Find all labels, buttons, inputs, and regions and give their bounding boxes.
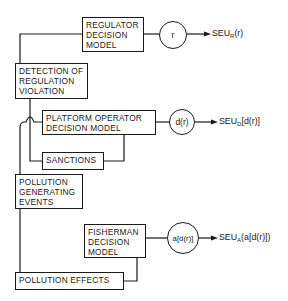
fisherman-seu-label: SEUA(a[d(r)]) bbox=[219, 232, 270, 243]
fisherman-decision-model-box: FISHERMAN DECISION MODEL bbox=[84, 224, 146, 258]
pollution-effects-box: POLLUTION EFFECTS bbox=[15, 272, 124, 290]
seu-base: SEU bbox=[219, 116, 237, 126]
seu-argument: [d(r)] bbox=[241, 116, 260, 126]
detection-of-regulation-violation-box: DETECTION OF REGULATION VIOLATION bbox=[15, 63, 88, 99]
regulator-decision-model-box: REGULATOR DECISION MODEL bbox=[82, 17, 144, 52]
seu-base: SEU bbox=[219, 232, 237, 242]
seu-argument: (a[d(r)]) bbox=[241, 232, 270, 242]
platform-decision-circle: d(r) bbox=[169, 109, 195, 135]
arrowheads bbox=[204, 32, 218, 241]
pollution-generating-events-box: POLLUTION GENERATING EVENTS bbox=[15, 174, 83, 209]
sanctions-box: SANCTIONS bbox=[42, 152, 104, 170]
seu-argument: (r) bbox=[234, 28, 243, 38]
regulator-decision-circle: r bbox=[159, 21, 187, 49]
regulator-seu-label: SEUR(r) bbox=[212, 28, 243, 39]
platform-operator-decision-model-box: PLATFORM OPERATOR DECISION MODEL bbox=[42, 110, 156, 135]
seu-base: SEU bbox=[212, 28, 230, 38]
fisherman-decision-circle: a[d(r)] bbox=[167, 222, 199, 254]
platform-seu-label: SEUD[d(r)] bbox=[219, 116, 260, 127]
